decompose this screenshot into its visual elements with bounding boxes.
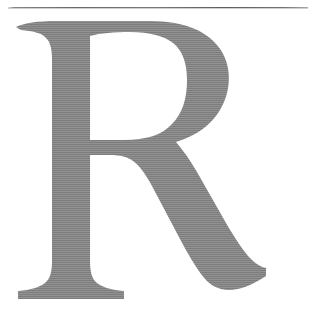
dropcap-glyph-path [16, 21, 266, 299]
horizontal-rule [8, 7, 308, 8]
dropcap-letter-r: R [0, 18, 280, 308]
scanned-page: R [0, 0, 310, 312]
